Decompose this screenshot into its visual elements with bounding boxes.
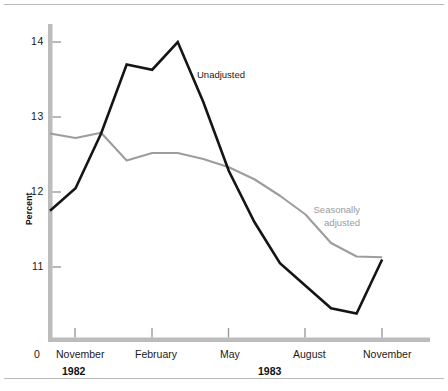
x-axis-year-label-1982: 1982 [62,365,85,377]
x-axis-bar [48,338,430,343]
y-tick-label-13: 13 [18,110,44,122]
seasonal-annotation-line-1: Seasonally [314,204,360,215]
series-annotation-seasonally-adjusted: Seasonallyadjusted [262,203,360,229]
y-axis-bar [48,24,53,342]
x-axis-origin-label: 0 [34,348,40,360]
x-tick-label-november-1982: November [56,348,104,360]
seasonal-annotation-line-2: adjusted [324,217,360,228]
line-chart-plot [0,0,448,391]
series-line-seasonally-adjusted [50,133,382,258]
x-tick-label-may-1983: May [220,348,240,360]
y-axis-title: Percent [24,192,34,225]
series-line-unadjusted [50,42,382,314]
series-annotation-unadjusted: Unadjusted [197,68,245,81]
chart-figure: 14 13 12 11 Percent 0 November February … [0,0,448,391]
x-tick-label-august-1983: August [293,348,326,360]
x-tick-label-november-1983: November [363,348,411,360]
x-tick-label-february-1983: February [135,348,177,360]
y-tick-label-14: 14 [18,35,44,47]
y-tick-label-11: 11 [18,260,44,272]
x-axis-year-label-1983: 1983 [258,365,281,377]
